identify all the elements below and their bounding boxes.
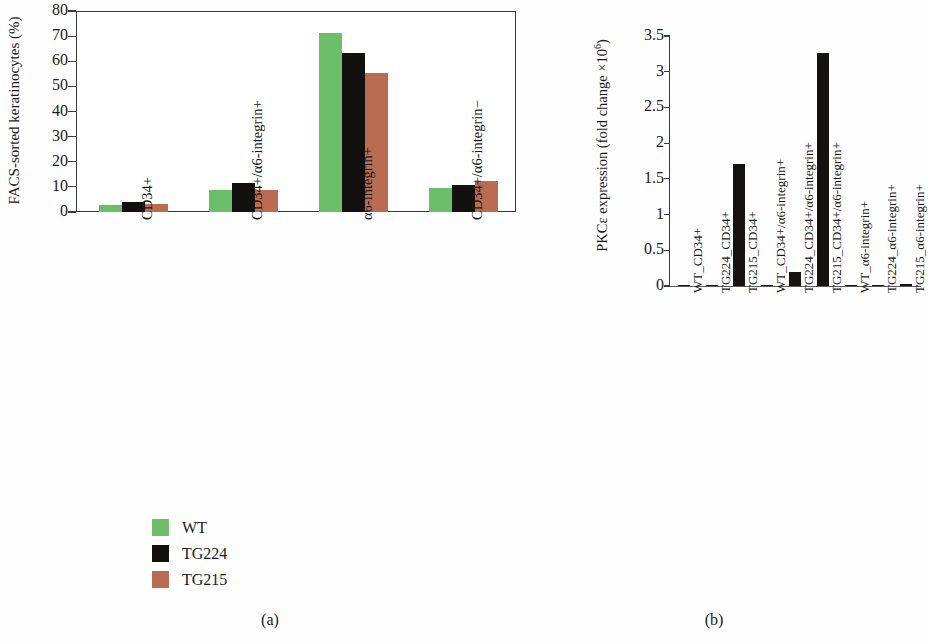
panel-a-y-axis-label-text: FACS-sorted keratinocytes (%) xyxy=(6,16,23,204)
panel-b-y-label-exponent: 6 xyxy=(592,44,603,49)
panel-b-bar xyxy=(789,272,801,286)
panel-a-tick-mark xyxy=(68,211,76,212)
panel-b-tick-label: 2 xyxy=(618,134,664,150)
panel-b-y-axis-label-text: PKCε expression (fold change ×106) xyxy=(592,39,611,252)
panel-b-x-category-text: TG224_α6-integrin+ xyxy=(884,184,900,293)
panel-a-tick-mark xyxy=(68,36,76,37)
panel-b-bar xyxy=(733,164,745,286)
panel-b-y-axis-label: PKCε expression (fold change ×106) xyxy=(588,0,614,290)
panel-b-x-category-text: TG215_CD34+/α6-integrin+ xyxy=(829,142,845,293)
panel-b-bar xyxy=(900,284,912,286)
panel-a-x-category-text: α6-integrin+ xyxy=(359,147,376,220)
panel-a-x-category-text: CD34+/α6-integrin− xyxy=(469,100,486,220)
panel-a-tick-mark xyxy=(68,161,76,162)
panel-a-tick-label: 60 xyxy=(28,52,68,68)
panel-a-tick-label: 20 xyxy=(28,153,68,169)
legend-item: WT xyxy=(152,516,227,539)
panel-a-tick-mark xyxy=(68,186,76,187)
legend-swatch-tg224 xyxy=(152,545,169,562)
panel-a-bar-group xyxy=(429,11,498,212)
panel-b-bar xyxy=(817,53,829,286)
panel-b-bar xyxy=(706,285,718,286)
legend-swatch-wt xyxy=(152,519,169,536)
panel-a-tick-label: 10 xyxy=(28,178,68,194)
panel-a-tick-mark xyxy=(68,136,76,137)
panel-b-tick-label: 3.5 xyxy=(618,27,664,43)
panel-a-bar-chart: FACS-sorted keratinocytes (%) 0102030405… xyxy=(0,0,540,644)
panel-b-tick-label: 0 xyxy=(618,277,664,293)
panel-b-bar xyxy=(845,285,857,286)
panel-a-tick-label: 50 xyxy=(28,77,68,93)
panel-a-x-category-text: CD34+ xyxy=(139,177,156,220)
panel-a-y-axis-label: FACS-sorted keratinocytes (%) xyxy=(2,10,26,210)
panel-b-x-category-text: TG224_CD34+ xyxy=(718,211,734,293)
panel-a-bar-group xyxy=(319,11,388,212)
panel-a-tick-label: 0 xyxy=(28,203,68,219)
panel-b-tick-label: 1.5 xyxy=(618,170,664,186)
legend-swatch-tg215 xyxy=(152,571,169,588)
panel-a-legend: WTTG224TG215 xyxy=(152,516,227,594)
panel-b-tick-label: 2.5 xyxy=(618,98,664,114)
panel-b-x-category-text: WT_α6-integrin+ xyxy=(857,201,873,293)
panel-b-caption: (b) xyxy=(540,611,888,629)
panel-a-tick-label: 80 xyxy=(28,2,68,18)
panel-a-tick-label: 40 xyxy=(28,103,68,119)
panel-b-bar xyxy=(678,285,690,286)
panel-b-bars-layer xyxy=(670,36,920,286)
panel-b-bar xyxy=(872,285,884,286)
panel-a-bar-group xyxy=(99,11,168,212)
panel-b-x-category-text: TG215_α6-integrin+ xyxy=(912,184,928,293)
panel-a-bar-wt xyxy=(209,190,232,212)
panel-a-tick-mark xyxy=(68,61,76,62)
panel-b-tick-label: 0.5 xyxy=(618,241,664,257)
legend-item: TG224 xyxy=(152,542,227,565)
panel-a-tick-mark xyxy=(68,10,76,11)
panel-a-bar-wt xyxy=(99,205,122,212)
panel-b-bar-chart: PKCε expression (fold change ×106) 00.51… xyxy=(540,0,888,644)
panel-b-x-category-text: WT_CD34+/α6-integrin+ xyxy=(773,159,789,293)
legend-label: TG224 xyxy=(182,546,227,562)
panel-a-caption: (a) xyxy=(0,611,540,629)
panel-a-bar-group xyxy=(209,11,278,212)
legend-item: TG215 xyxy=(152,568,227,591)
panel-b-tick-label: 3 xyxy=(618,63,664,79)
panel-a-tick-label: 30 xyxy=(28,128,68,144)
panel-a-tick-label: 70 xyxy=(28,27,68,43)
panel-b-bar xyxy=(761,285,773,286)
panel-b-x-category-text: TG215_CD34+ xyxy=(745,211,761,293)
panel-a-bar-wt xyxy=(319,33,342,212)
panel-a-x-category-text: CD34+/α6-integrin+ xyxy=(249,100,266,220)
panel-a-tick-mark xyxy=(68,86,76,87)
panel-a-tick-mark xyxy=(68,111,76,112)
panel-b-x-category-text: TG224_CD34+/α6-integrin+ xyxy=(801,142,817,293)
legend-label: TG215 xyxy=(182,572,227,588)
panel-b-tick-label: 1 xyxy=(618,206,664,222)
legend-label: WT xyxy=(182,520,207,536)
panel-a-bar-wt xyxy=(429,188,452,212)
panel-b-x-category-text: WT_CD34+ xyxy=(690,228,706,293)
